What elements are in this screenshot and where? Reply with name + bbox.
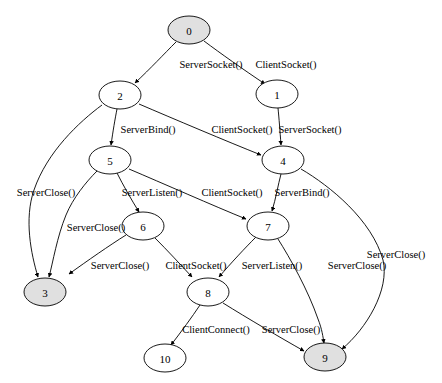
edge-2-to-5 (111, 109, 117, 145)
node-label-2: 2 (117, 90, 123, 102)
node-5[interactable]: 5 (89, 146, 131, 174)
edge-label-7-to-9: ServerClose() (328, 260, 387, 272)
node-2[interactable]: 2 (99, 81, 141, 109)
node-label-7: 7 (265, 221, 271, 233)
edge-label-6-to-3: ServerClose() (91, 260, 150, 272)
edge-6-to-8 (155, 238, 192, 277)
edge-label-8-to-10: ClientConnect() (182, 324, 250, 336)
edge-label-5-to-3: ServerClose() (67, 222, 126, 234)
node-0[interactable]: 0 (168, 16, 210, 44)
node-label-8: 8 (205, 287, 211, 299)
edge-label-6-to-8: ClientSocket() (165, 260, 227, 272)
edge-label-2-to-4: ClientSocket() (211, 124, 273, 136)
node-label-3: 3 (42, 287, 48, 299)
graph-canvas: 012345678910 ServerSocket()ClientSocket(… (0, 0, 442, 383)
edge-7-to-8 (219, 237, 256, 277)
edge-label-4-to-9: ServerClose() (367, 249, 426, 261)
state-machine-diagram: 012345678910 ServerSocket()ClientSocket(… (0, 0, 442, 383)
edge-label-0-to-2: ServerSocket() (180, 59, 243, 71)
edge-label-1-to-4: ServerSocket() (279, 124, 342, 136)
node-label-6: 6 (140, 221, 146, 233)
node-label-5: 5 (107, 155, 113, 167)
node-4[interactable]: 4 (262, 146, 304, 174)
edge-label-5-to-7: ClientSocket() (201, 187, 263, 199)
node-label-1: 1 (274, 89, 280, 101)
node-label-10: 10 (160, 353, 172, 365)
node-6[interactable]: 6 (122, 212, 164, 240)
edge-label-2-to-3: ServerClose() (17, 187, 76, 199)
node-8[interactable]: 8 (187, 278, 229, 306)
edge-label-4-to-7: ServerBind() (275, 187, 330, 199)
edge-label-8-to-9: ServerClose() (262, 324, 321, 336)
edge-label-7-to-8: ServerListen() (242, 260, 303, 272)
node-3[interactable]: 3 (24, 278, 66, 306)
edge-label-2-to-5: ServerBind() (121, 124, 176, 136)
edge-label-0-to-1: ClientSocket() (255, 59, 317, 71)
node-label-9: 9 (322, 352, 328, 364)
edge-0-to-2 (135, 42, 176, 83)
edge-label-5-to-6: ServerListen() (122, 187, 183, 199)
node-label-4: 4 (280, 155, 286, 167)
node-1[interactable]: 1 (256, 80, 298, 108)
node-10[interactable]: 10 (144, 344, 186, 372)
node-label-0: 0 (186, 25, 192, 37)
node-7[interactable]: 7 (247, 212, 289, 240)
node-9[interactable]: 9 (304, 343, 346, 371)
